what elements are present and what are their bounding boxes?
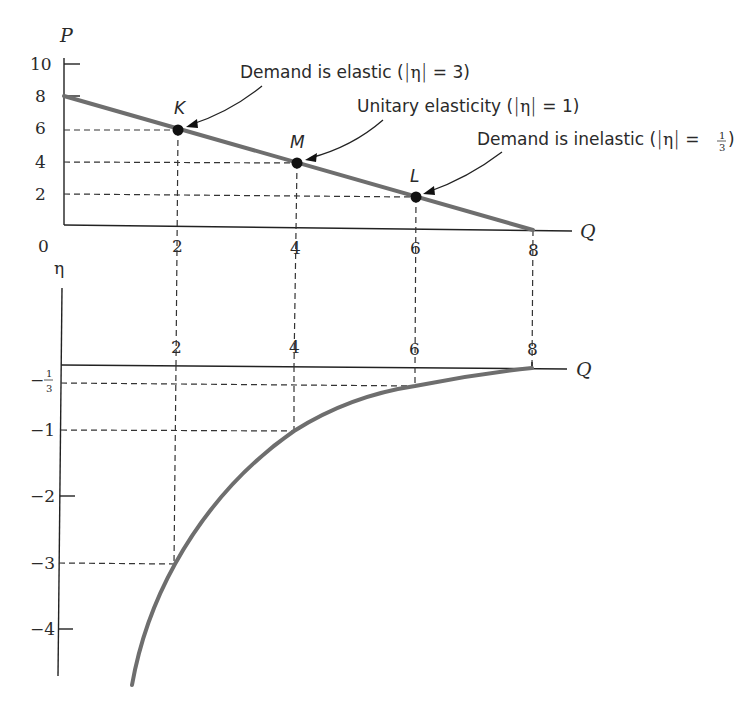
eta-tick-label-minus-4: −4 bbox=[30, 619, 55, 639]
guide-p2 bbox=[64, 194, 416, 197]
eta-tick-label-minus-2: −2 bbox=[30, 486, 55, 506]
eta-tick-third-numerator: 1 bbox=[46, 368, 52, 379]
bottom-quantity-axis-label: Q bbox=[576, 358, 592, 380]
annotation-inelastic-close: ) bbox=[728, 129, 735, 149]
eta-tick-third-denominator: 3 bbox=[46, 383, 52, 394]
point-m-marker bbox=[292, 158, 303, 169]
point-k-label: K bbox=[174, 98, 187, 118]
quantity-axis bbox=[64, 225, 572, 231]
elasticity-figure: P Q 10 8 6 4 2 0 2 4 6 8 K M L bbox=[0, 0, 742, 710]
origin-label: 0 bbox=[38, 236, 49, 256]
annotation-inelastic-denominator: 3 bbox=[719, 142, 725, 153]
y-tick-label-10: 10 bbox=[30, 54, 52, 74]
eta-tick-third-minus: − bbox=[30, 370, 44, 390]
y-tick-label-8: 8 bbox=[35, 86, 46, 106]
bottom-quantity-axis bbox=[61, 365, 567, 369]
annotation-elastic: Demand is elastic (|η| = 3) bbox=[240, 59, 470, 83]
eta-axis-label: η bbox=[54, 258, 64, 278]
guide-eta-3 bbox=[59, 563, 175, 564]
elasticity-chart: η Q 2 4 6 8 − 1 3 −1 −2 −3 −4 bbox=[30, 258, 592, 685]
guide-q4 bbox=[294, 163, 297, 366]
eta-tick-label-minus-3: −3 bbox=[30, 553, 55, 573]
guide-q2-lower bbox=[174, 365, 176, 564]
annotation-inelastic-numerator: 1 bbox=[719, 130, 725, 141]
point-l-marker bbox=[411, 192, 422, 203]
bottom-x-tick-label-6: 6 bbox=[409, 339, 420, 359]
bottom-x-tick-label-2: 2 bbox=[171, 337, 182, 357]
bottom-x-tick-label-4: 4 bbox=[289, 337, 300, 357]
y-tick-label-4: 4 bbox=[35, 152, 46, 172]
arrow-inelastic bbox=[428, 152, 502, 192]
point-k-marker bbox=[173, 125, 184, 136]
bottom-x-tick-label-8: 8 bbox=[527, 339, 538, 359]
arrow-inelastic-head bbox=[423, 186, 435, 195]
annotation-inelastic: Demand is inelastic (|η| = bbox=[477, 126, 700, 150]
guide-p4 bbox=[64, 162, 297, 163]
guide-eta-1 bbox=[61, 430, 294, 431]
arrow-unitary-head bbox=[305, 153, 317, 162]
quantity-axis-label: Q bbox=[580, 220, 596, 242]
y-tick-label-2: 2 bbox=[35, 184, 46, 204]
y-tick-label-6: 6 bbox=[35, 118, 46, 138]
arrow-elastic bbox=[190, 86, 262, 125]
guide-eta-third bbox=[61, 383, 415, 386]
arrow-elastic-head bbox=[186, 119, 198, 128]
price-axis-label: P bbox=[59, 24, 74, 46]
point-m-label: M bbox=[290, 132, 305, 152]
arrow-unitary bbox=[310, 120, 383, 158]
point-l-label: L bbox=[410, 166, 419, 186]
elasticity-curve bbox=[132, 368, 532, 685]
demand-chart: P Q 10 8 6 4 2 0 2 4 6 8 K M L bbox=[30, 24, 735, 368]
annotation-unitary: Unitary elasticity (|η| = 1) bbox=[357, 93, 579, 117]
eta-tick-label-minus-1: −1 bbox=[30, 420, 55, 440]
eta-axis bbox=[58, 288, 62, 676]
